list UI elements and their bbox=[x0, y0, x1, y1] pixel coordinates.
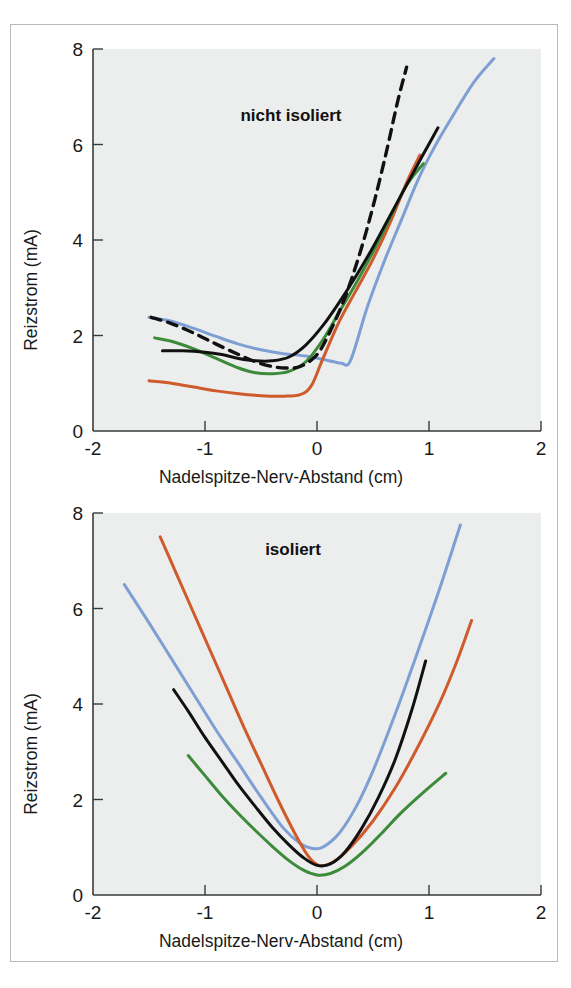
x-tick-label-1: 1 bbox=[424, 438, 435, 459]
x-tick-label-minus1: -1 bbox=[197, 438, 214, 459]
chart-panel-isoliert: 8 6 4 2 0 -2 -1 0 1 2 Nadelspitze-Nerv-A… bbox=[11, 493, 559, 963]
y-tick-label-8: 8 bbox=[72, 503, 83, 524]
y-tick-label-6: 6 bbox=[72, 599, 83, 620]
chart-svg-isoliert: 8 6 4 2 0 -2 -1 0 1 2 Nadelspitze-Nerv-A… bbox=[11, 493, 559, 963]
x-axis-title: Nadelspitze-Nerv-Abstand (cm) bbox=[159, 467, 403, 487]
y-tick-label-2: 2 bbox=[72, 326, 83, 347]
x-tick-label-minus2: -2 bbox=[85, 902, 102, 923]
y-axis-title: Reizstrom (mA) bbox=[21, 229, 41, 351]
chart-panel-nicht-isoliert: 8 6 4 2 0 -2 -1 0 1 2 Nadelspitze-Nerv-A… bbox=[11, 25, 559, 493]
y-tick-label-2: 2 bbox=[72, 790, 83, 811]
y-tick-label-0: 0 bbox=[72, 885, 83, 906]
y-tick-label-0: 0 bbox=[72, 421, 83, 442]
y-tick-label-4: 4 bbox=[72, 230, 83, 251]
x-tick-label-2: 2 bbox=[536, 438, 547, 459]
chart-svg-nicht-isoliert: 8 6 4 2 0 -2 -1 0 1 2 Nadelspitze-Nerv-A… bbox=[11, 25, 559, 493]
y-tick-label-4: 4 bbox=[72, 694, 83, 715]
x-tick-label-0: 0 bbox=[312, 902, 323, 923]
plot-background bbox=[93, 513, 541, 895]
x-tick-label-2: 2 bbox=[536, 902, 547, 923]
panel-title-isoliert: isoliert bbox=[265, 540, 321, 559]
y-tick-label-8: 8 bbox=[72, 39, 83, 60]
x-axis-title: Nadelspitze-Nerv-Abstand (cm) bbox=[159, 931, 403, 951]
figure-frame: 8 6 4 2 0 -2 -1 0 1 2 Nadelspitze-Nerv-A… bbox=[10, 24, 558, 962]
x-tick-label-1: 1 bbox=[424, 902, 435, 923]
x-tick-label-minus2: -2 bbox=[85, 438, 102, 459]
y-tick-label-6: 6 bbox=[72, 135, 83, 156]
panel-title-nicht-isoliert: nicht isoliert bbox=[240, 106, 341, 125]
x-tick-label-minus1: -1 bbox=[197, 902, 214, 923]
x-tick-label-0: 0 bbox=[312, 438, 323, 459]
y-axis-title: Reizstrom (mA) bbox=[21, 693, 41, 815]
